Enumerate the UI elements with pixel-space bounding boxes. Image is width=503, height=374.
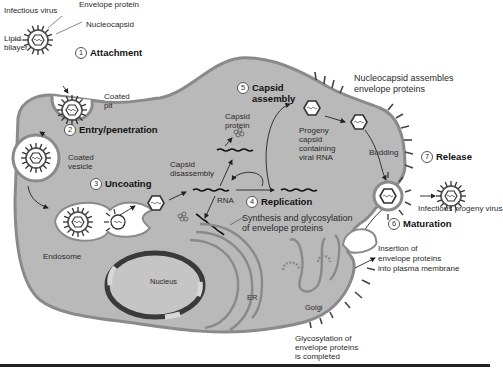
label-glycosylation-3: is completed <box>295 352 340 362</box>
label-nucleocapsid: Nucleocapsid <box>86 20 134 30</box>
label-synthesis: Synthesis and glycosylation <box>242 213 353 223</box>
label-synthesis-2: of envelope proteins <box>242 223 323 233</box>
label-rna: RNA <box>217 196 234 206</box>
step-label: Capsidassembly <box>252 82 295 104</box>
label-er: ER <box>247 293 257 303</box>
step-number: 5 <box>237 82 249 94</box>
step-number: 1 <box>75 47 87 59</box>
step-uncoating: 3 Uncoating <box>90 178 151 190</box>
step-label: Replication <box>261 196 312 207</box>
label-golgi: Golgi <box>305 303 323 313</box>
progeny-capsid-2 <box>351 115 367 129</box>
label-envelope-protein: Envelope protein <box>79 0 139 10</box>
label-nucleocapsid-assembles-2: envelope proteins <box>354 84 425 95</box>
step-number: 6 <box>388 218 400 230</box>
step-label: Attachment <box>90 47 142 58</box>
label-budding: Budding <box>369 148 398 158</box>
step-capsid-assembly: 5 Capsidassembly <box>237 82 295 104</box>
step-number: 7 <box>421 151 433 163</box>
step-entry: 2 Entry/penetration <box>64 124 158 136</box>
label-coated-pit-2: pit <box>104 101 112 111</box>
step-label: Maturation <box>403 218 452 229</box>
label-insertion: Insertion of <box>378 244 418 254</box>
label-insertion-3: into plasma membrane <box>378 264 459 274</box>
progeny-capsid <box>304 101 320 115</box>
step-number: 4 <box>246 196 258 208</box>
step-label: Uncoating <box>105 178 151 189</box>
label-capsid-protein-2: protein <box>225 121 249 131</box>
step-replication: 4 Replication <box>246 196 312 208</box>
virus-in-coated-pit <box>57 95 87 125</box>
label-infectious-virus: Infectious virus <box>4 6 57 16</box>
step-attachment: 1 Attachment <box>75 47 142 59</box>
step-number: 2 <box>64 124 76 136</box>
label-nucleus: Nucleus <box>150 277 177 287</box>
step-release: 7 Release <box>421 151 472 163</box>
step-label-line: assembly <box>252 93 295 104</box>
label-bilayer: bilayer <box>4 43 28 53</box>
step-label: Release <box>436 151 472 162</box>
label-endosome: Endosome <box>43 252 81 262</box>
step-maturation: 6 Maturation <box>388 218 452 230</box>
capsid-uncoated <box>148 196 164 210</box>
label-capsid-disassembly-2: disassembly <box>170 169 214 179</box>
label-coated-vesicle-2: vesicle <box>68 162 92 172</box>
label-infectious-progeny-virus: Infectious progeny virus <box>418 204 503 214</box>
label-progeny-4: viral RNA <box>299 153 333 163</box>
step-label: Entry/penetration <box>79 124 158 135</box>
label-insertion-2: envelope proteins <box>378 254 441 264</box>
bottom-divider <box>0 364 490 367</box>
step-label-line: Capsid <box>252 82 284 93</box>
label-nucleocapsid-assembles: Nucleocapsid assembles <box>354 73 454 84</box>
step-number: 3 <box>90 178 102 190</box>
